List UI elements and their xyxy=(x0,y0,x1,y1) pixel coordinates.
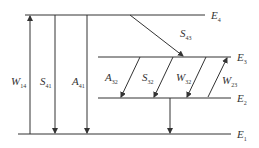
level-e4-label: E4 xyxy=(210,9,221,23)
s41-label: S41 xyxy=(40,75,52,89)
s32-arrow xyxy=(154,57,173,97)
a32-arrow xyxy=(121,57,140,97)
w32-arrow xyxy=(187,57,206,97)
w32-label: W32 xyxy=(176,71,191,85)
a41-label: A41 xyxy=(71,75,85,89)
s32-label: S32 xyxy=(142,71,154,85)
level-e1-label: E1 xyxy=(236,128,247,142)
w14-label: W14 xyxy=(11,75,26,89)
s43-label: S43 xyxy=(180,27,192,41)
energy-level-diagram: E4 E3 E2 E1 W14 S41 A41 S43 A32 S32 W32 … xyxy=(0,0,259,148)
a32-label: A32 xyxy=(104,71,118,85)
w23-label: W23 xyxy=(222,74,237,88)
s43-arrow xyxy=(130,15,183,56)
level-e2-label: E2 xyxy=(236,92,247,106)
level-e3-label: E3 xyxy=(236,51,247,65)
